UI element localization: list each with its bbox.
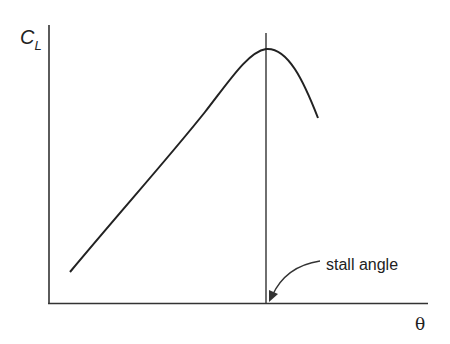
stall-angle-arrow bbox=[272, 261, 320, 296]
y-axis-label: CL bbox=[20, 26, 42, 53]
stall-angle-label: stall angle bbox=[326, 256, 398, 273]
lift-curve bbox=[70, 49, 318, 272]
lift-curve-chart: CL stall angle θ bbox=[0, 0, 450, 344]
x-axis-label: θ bbox=[415, 314, 425, 334]
